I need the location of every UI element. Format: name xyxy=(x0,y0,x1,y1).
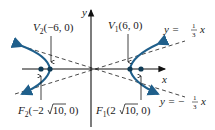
asymptote-positive-label: y = 1 3 x xyxy=(163,22,205,39)
hyperbola-left-branch xyxy=(22,46,50,94)
svg-text:y = −: y = − xyxy=(159,95,185,107)
v1-label: V1(6, 0) xyxy=(108,19,143,34)
svg-text:1: 1 xyxy=(193,94,197,102)
svg-text:F2(−210, 0): F2(−210, 0) xyxy=(17,104,79,119)
svg-text:y =: y = xyxy=(163,23,179,35)
vertex-v2-point xyxy=(47,66,52,71)
f2-label: F2(−210, 0) xyxy=(17,104,79,119)
svg-text:x: x xyxy=(199,23,205,35)
v2-label: V2(−6, 0) xyxy=(33,21,74,36)
svg-text:3: 3 xyxy=(193,103,197,111)
svg-text:x: x xyxy=(200,95,206,107)
focus-f1-point xyxy=(138,66,143,71)
svg-text:1: 1 xyxy=(192,22,196,30)
hyperbola-diagram: y x V2(−6, 0) V1(6, 0) y = 1 3 x y = − 1… xyxy=(0,0,215,130)
focus-f2-point xyxy=(38,66,43,71)
y-axis-label: y xyxy=(81,6,87,18)
x-axis-label: x xyxy=(161,73,167,85)
asymptote-negative-label: y = − 1 3 x xyxy=(159,94,206,111)
svg-text:3: 3 xyxy=(192,31,196,39)
f1-label: F1(210, 0) xyxy=(95,104,151,119)
vertex-v1-point xyxy=(127,66,132,71)
